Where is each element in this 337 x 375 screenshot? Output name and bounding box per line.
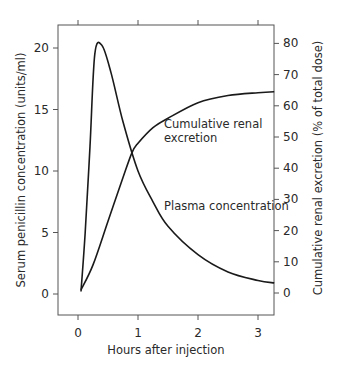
- y2-tick-label: 0: [283, 286, 291, 300]
- y-axis-left-title: Serum penicillin concentration (units/ml…: [14, 53, 28, 288]
- y-axis-right-title: Cumulative renal excretion (% of total d…: [311, 41, 325, 296]
- annotation-renal-line1: Cumulative renal: [164, 117, 262, 131]
- penicillin-chart: 0123 05101520 01020304050607080 Cumulati…: [0, 0, 337, 375]
- y-axis-left: 05101520: [34, 41, 58, 301]
- x-axis-title: Hours after injection: [107, 343, 224, 357]
- annotation-plasma: Plasma concentration: [164, 199, 289, 213]
- y-axis-right: 01020304050607080: [274, 36, 298, 300]
- y2-tick-label: 40: [283, 161, 298, 175]
- y-tick-label: 5: [41, 226, 49, 240]
- x-axis: 0123: [74, 20, 262, 340]
- x-tick-label: 0: [74, 326, 82, 340]
- y-tick-label: 10: [34, 164, 49, 178]
- y2-tick-label: 20: [283, 224, 298, 238]
- y2-tick-label: 60: [283, 99, 298, 113]
- y2-tick-label: 10: [283, 255, 298, 269]
- y-tick-label: 20: [34, 41, 49, 55]
- plasma-concentration-curve: [81, 42, 274, 291]
- y-tick-label: 15: [34, 103, 49, 117]
- y2-tick-label: 50: [283, 130, 298, 144]
- x-tick-label: 3: [254, 326, 262, 340]
- y-tick-label: 0: [41, 287, 49, 301]
- y2-tick-label: 70: [283, 68, 298, 82]
- annotation-renal-line2: excretion: [164, 131, 217, 145]
- x-tick-label: 2: [194, 326, 202, 340]
- x-tick-label: 1: [134, 326, 142, 340]
- y2-tick-label: 80: [283, 36, 298, 50]
